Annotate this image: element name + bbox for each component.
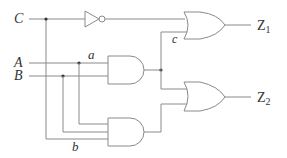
wire-and2-to-or2 bbox=[144, 104, 188, 132]
logic-circuit-diagram: C A B a b c Z1 Z2 bbox=[0, 0, 287, 158]
wire-and1-to-or2 bbox=[161, 70, 188, 89]
or-gate-1 bbox=[184, 12, 225, 39]
not-gate bbox=[85, 11, 105, 27]
output-label-z2: Z2 bbox=[257, 90, 271, 107]
wire-label-a: a bbox=[88, 47, 95, 62]
and-gate-2 bbox=[108, 118, 144, 146]
wire-label-b: b bbox=[72, 139, 79, 154]
junction-c bbox=[44, 17, 47, 20]
or-gate-2 bbox=[184, 82, 225, 111]
input-label-c: C bbox=[14, 11, 24, 26]
wire-label-c: c bbox=[172, 32, 178, 46]
output-label-z1: Z1 bbox=[257, 18, 271, 35]
input-label-b: B bbox=[14, 68, 23, 83]
wire-c-branch bbox=[46, 19, 108, 139]
wire-a-branch bbox=[79, 63, 108, 124]
and-gate-1 bbox=[108, 56, 144, 84]
